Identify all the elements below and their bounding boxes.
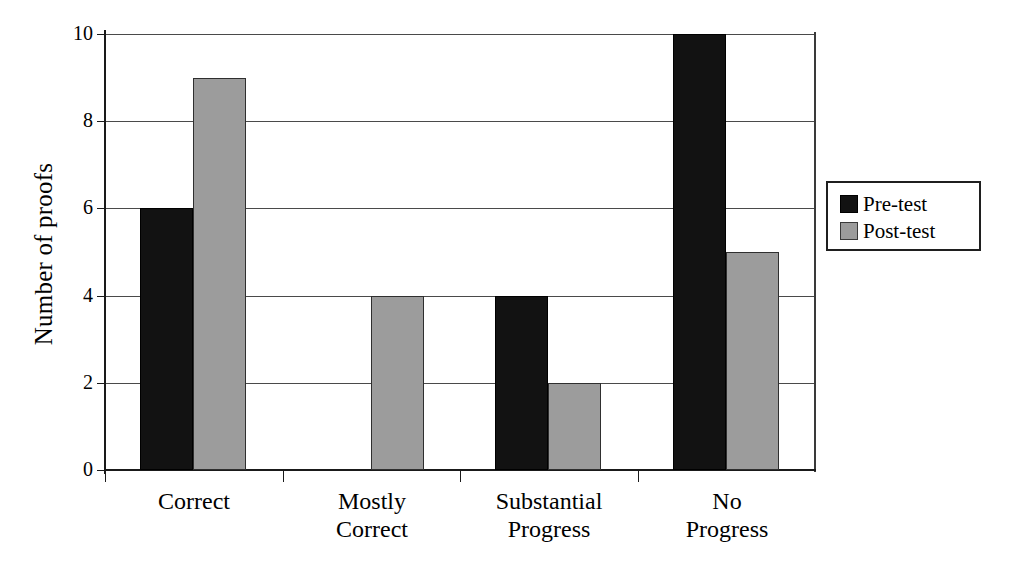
y-tick-label-wrap: 8 [0, 110, 93, 130]
y-tick-label-wrap: 0 [0, 459, 93, 479]
y-tick-label-10: 10 [53, 23, 93, 43]
category-label-line: Correct [283, 515, 461, 543]
y-axis-title: Number of proofs [30, 124, 58, 384]
bar-post-test-substantial-progress [548, 383, 601, 470]
y-tick-label-8: 8 [53, 110, 93, 130]
legend-label-post-test: Post-test [863, 221, 935, 242]
x-category-label-no-progress: NoProgress [638, 487, 816, 544]
x-tick-mark-1 [283, 470, 284, 482]
bar-post-test-no-progress [726, 252, 779, 470]
x-tick-mark-2 [460, 470, 461, 482]
category-label-line: No [638, 487, 816, 515]
legend-item-post-test: Post-test [840, 218, 979, 244]
legend-swatch-pre-test-icon [840, 195, 858, 213]
y-tick-label-2: 2 [53, 372, 93, 392]
bar-chart-figure: Number of proofs 0246810 CorrectMostlyCo… [0, 0, 1019, 567]
chart-legend: Pre-test Post-test [826, 181, 981, 251]
y-tick-label-wrap: 2 [0, 372, 93, 392]
bar-post-test-correct [193, 78, 246, 470]
bar-pre-test-no-progress [673, 34, 726, 470]
legend-label-pre-test: Pre-test [863, 194, 927, 215]
y-axis-line [104, 30, 106, 474]
y-tick-label-wrap: 10 [0, 23, 93, 43]
legend-item-pre-test: Pre-test [840, 191, 979, 217]
x-tick-mark-0 [105, 470, 106, 482]
category-label-line: Progress [638, 515, 816, 543]
x-tick-mark-3 [638, 470, 639, 482]
bar-pre-test-correct [140, 208, 193, 470]
category-label-line: Correct [105, 487, 283, 515]
x-category-label-substantial-progress: SubstantialProgress [460, 487, 638, 544]
category-label-line: Mostly [283, 487, 461, 515]
y-tick-label-4: 4 [53, 285, 93, 305]
y-tick-label-wrap: 6 [0, 197, 93, 217]
y-tick-label-wrap: 4 [0, 285, 93, 305]
y-tick-label-0: 0 [53, 459, 93, 479]
bar-post-test-mostly-correct [371, 296, 424, 470]
category-label-line: Substantial [460, 487, 638, 515]
plot-right-border [814, 32, 816, 472]
x-category-label-correct: Correct [105, 487, 283, 515]
bar-pre-test-substantial-progress [495, 296, 548, 470]
category-label-line: Progress [460, 515, 638, 543]
legend-swatch-post-test-icon [840, 222, 858, 240]
y-tick-label-6: 6 [53, 197, 93, 217]
x-category-label-mostly-correct: MostlyCorrect [283, 487, 461, 544]
